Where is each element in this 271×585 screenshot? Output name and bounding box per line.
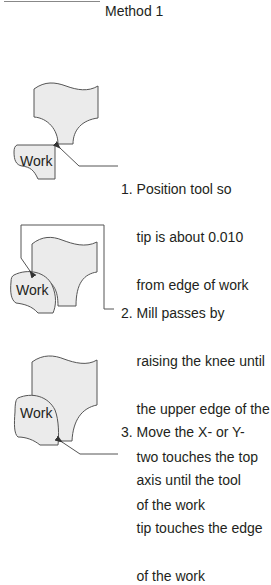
cutting-tool <box>34 83 98 144</box>
work-label: Work <box>20 405 53 421</box>
step-line: axis until the tool <box>121 472 263 488</box>
figure-1: Work <box>14 83 118 179</box>
step-line: of the work <box>121 568 263 584</box>
figure-3: Work <box>14 356 118 454</box>
leader-arrow <box>60 148 118 166</box>
step-line: 3. Move the X- or Y- <box>121 424 263 440</box>
step-line: raising the knee until <box>121 353 270 369</box>
step-line: tip is about 0.010 <box>121 229 249 245</box>
work-label: Work <box>16 282 49 298</box>
figure-2: Work <box>11 225 114 313</box>
leader-arrow <box>62 442 118 454</box>
step-3-text: 3. Move the X- or Y- axis until the tool… <box>121 392 263 585</box>
work-label: Work <box>20 153 53 169</box>
step-line: 1. Position tool so <box>121 181 249 197</box>
diagram-title: Method 1 <box>105 3 163 19</box>
step-line: tip touches the edge <box>121 520 263 536</box>
step-line: 2. Mill passes by <box>121 305 270 321</box>
